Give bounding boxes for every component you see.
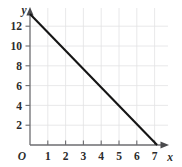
y-tick-label-10: 10 xyxy=(11,40,23,52)
x-tick-label-3: 3 xyxy=(81,150,87,162)
x-tick-label-6: 6 xyxy=(134,150,140,162)
x-axis xyxy=(30,141,169,149)
x-tick-label-2: 2 xyxy=(63,150,69,162)
y-tick-labels: 2 4 6 8 10 12 xyxy=(11,20,23,131)
y-axis-label: y xyxy=(19,4,27,17)
y-tick-label-2: 2 xyxy=(16,119,22,131)
y-tick-label-4: 4 xyxy=(16,100,22,112)
x-tick-label-4: 4 xyxy=(98,150,104,162)
x-tick-label-5: 5 xyxy=(116,150,122,162)
line-chart: 2 4 6 8 10 12 1 2 3 4 5 6 7 O y x xyxy=(0,0,182,167)
y-tick-label-12: 12 xyxy=(11,20,23,32)
chart-canvas: 2 4 6 8 10 12 1 2 3 4 5 6 7 O y x xyxy=(0,0,182,167)
x-tick-label-1: 1 xyxy=(45,150,51,162)
origin-label: O xyxy=(18,150,26,162)
y-tick-label-6: 6 xyxy=(16,80,22,92)
x-tick-label-7: 7 xyxy=(152,150,158,162)
x-axis-label: x xyxy=(166,151,173,163)
grid-horizontal-lines xyxy=(30,26,168,125)
x-tick-labels: 1 2 3 4 5 6 7 xyxy=(45,150,158,162)
y-tick-label-8: 8 xyxy=(16,60,22,72)
x-axis-arrow-icon xyxy=(161,141,170,148)
y-axis xyxy=(26,7,34,145)
